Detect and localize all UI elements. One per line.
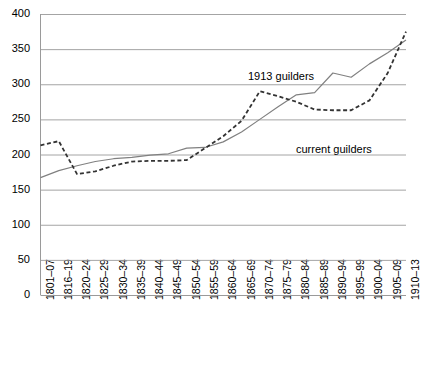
series-annotation-current-guilders: current guilders — [296, 143, 372, 155]
series-line-solid — [41, 40, 407, 178]
series-lines — [41, 32, 407, 178]
gridlines — [41, 15, 407, 261]
series-annotation-1913-guilders: 1913 guilders — [248, 70, 314, 82]
